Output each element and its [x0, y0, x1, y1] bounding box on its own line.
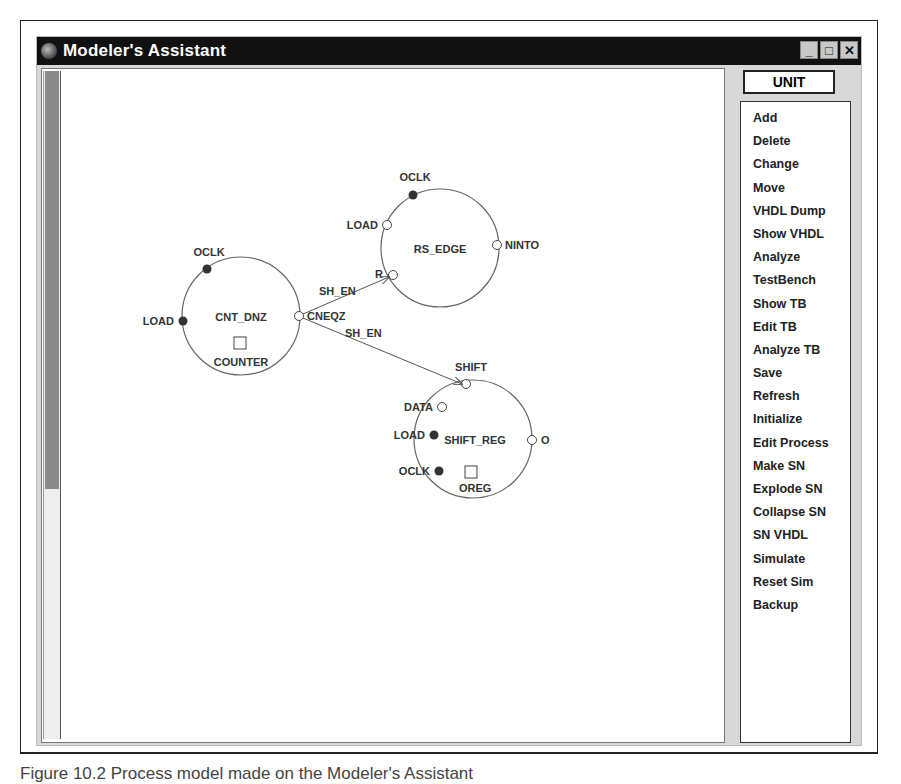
unit-mode-button[interactable]: UNIT [743, 70, 835, 94]
minimize-icon: _ [805, 43, 812, 58]
port-open-icon[interactable] [528, 436, 537, 445]
process-name: RS_EDGE [414, 243, 467, 255]
variable-box-icon[interactable] [234, 337, 246, 349]
title-bar[interactable]: Modeler's Assistant _ □ ✕ [37, 37, 861, 65]
port-label: DATA [404, 401, 433, 413]
menu-item-simulate[interactable]: Simulate [741, 548, 850, 571]
port-label: NINTO [505, 239, 539, 251]
process-cnt-dnz[interactable]: CNT_DNZ COUNTER OCLK LOAD CNEQZ [143, 246, 346, 375]
menu-item-change[interactable]: Change [741, 153, 850, 176]
menu-item-collapse-sn[interactable]: Collapse SN [741, 501, 850, 524]
port-label: LOAD [394, 429, 425, 441]
menu-item-delete[interactable]: Delete [741, 130, 850, 153]
menu-item-show-vhdl[interactable]: Show VHDL [741, 223, 850, 246]
menu-item-save[interactable]: Save [741, 362, 850, 385]
variable-label: COUNTER [214, 356, 268, 368]
variable-label: OREG [459, 482, 491, 494]
app-window: Modeler's Assistant _ □ ✕ CNT_DNZ COUNTE… [36, 36, 862, 746]
port-label: O [541, 434, 550, 446]
window-controls: _ □ ✕ [800, 41, 858, 59]
port-label: OCLK [193, 246, 224, 258]
port-label: OCLK [399, 171, 430, 183]
menu-item-analyze[interactable]: Analyze [741, 246, 850, 269]
port-open-icon[interactable] [383, 221, 392, 230]
menu-item-initialize[interactable]: Initialize [741, 408, 850, 431]
signal-label: SH_EN [345, 327, 382, 339]
process-rs-edge[interactable]: RS_EDGE OCLK LOAD NINTO R [347, 171, 540, 307]
scrollbar-thumb[interactable] [45, 71, 59, 489]
port-open-icon[interactable] [438, 403, 447, 412]
menu-item-backup[interactable]: Backup [741, 594, 850, 617]
menu-item-explode-sn[interactable]: Explode SN [741, 478, 850, 501]
maximize-button[interactable]: □ [820, 41, 838, 59]
menu-item-show-tb[interactable]: Show TB [741, 293, 850, 316]
menu-item-reset-sim[interactable]: Reset Sim [741, 571, 850, 594]
close-button[interactable]: ✕ [840, 41, 858, 59]
minimize-button[interactable]: _ [800, 41, 818, 59]
process-diagram[interactable]: CNT_DNZ COUNTER OCLK LOAD CNEQZ RS_EDGE … [63, 71, 723, 731]
port-label: R [375, 268, 383, 280]
command-menu: Add Delete Change Move VHDL Dump Show VH… [740, 101, 851, 743]
signal-sh-en-to-shift-reg[interactable]: SH_EN [303, 318, 462, 384]
menu-item-add[interactable]: Add [741, 107, 850, 130]
figure-caption: Figure 10.2 Process model made on the Mo… [20, 764, 473, 784]
port-label: CNEQZ [307, 310, 346, 322]
menu-item-make-sn[interactable]: Make SN [741, 455, 850, 478]
port-open-icon[interactable] [462, 380, 471, 389]
menu-item-refresh[interactable]: Refresh [741, 385, 850, 408]
menu-item-edit-process[interactable]: Edit Process [741, 432, 850, 455]
window-title: Modeler's Assistant [63, 41, 226, 61]
process-shift-reg[interactable]: SHIFT_REG OREG SHIFT DATA LOAD OCLK O [394, 361, 550, 498]
port-label: OCLK [399, 465, 430, 477]
app-icon[interactable] [41, 43, 57, 59]
port-label: LOAD [347, 219, 378, 231]
variable-box-icon[interactable] [465, 466, 477, 478]
menu-item-edit-tb[interactable]: Edit TB [741, 316, 850, 339]
port-filled-icon[interactable] [203, 265, 212, 274]
port-filled-icon[interactable] [430, 431, 439, 440]
menu-item-testbench[interactable]: TestBench [741, 269, 850, 292]
command-panel: UNIT Add Delete Change Move VHDL Dump Sh… [733, 68, 855, 743]
maximize-icon: □ [825, 43, 833, 58]
menu-item-vhdl-dump[interactable]: VHDL Dump [741, 200, 850, 223]
signal-sh-en-to-rs-edge[interactable]: SH_EN [303, 277, 389, 314]
port-open-icon[interactable] [493, 241, 502, 250]
signal-label: SH_EN [319, 285, 356, 297]
port-filled-icon[interactable] [409, 191, 418, 200]
port-label: LOAD [143, 315, 174, 327]
port-open-icon[interactable] [389, 271, 398, 280]
menu-item-sn-vhdl[interactable]: SN VHDL [741, 524, 850, 547]
menu-item-analyze-tb[interactable]: Analyze TB [741, 339, 850, 362]
vertical-scrollbar[interactable] [43, 71, 61, 739]
close-icon: ✕ [844, 43, 855, 58]
port-open-icon[interactable] [295, 312, 304, 321]
menu-item-move[interactable]: Move [741, 177, 850, 200]
port-label: SHIFT [455, 361, 487, 373]
process-name: SHIFT_REG [444, 434, 506, 446]
port-filled-icon[interactable] [435, 467, 444, 476]
port-filled-icon[interactable] [179, 317, 188, 326]
process-name: CNT_DNZ [215, 311, 267, 323]
